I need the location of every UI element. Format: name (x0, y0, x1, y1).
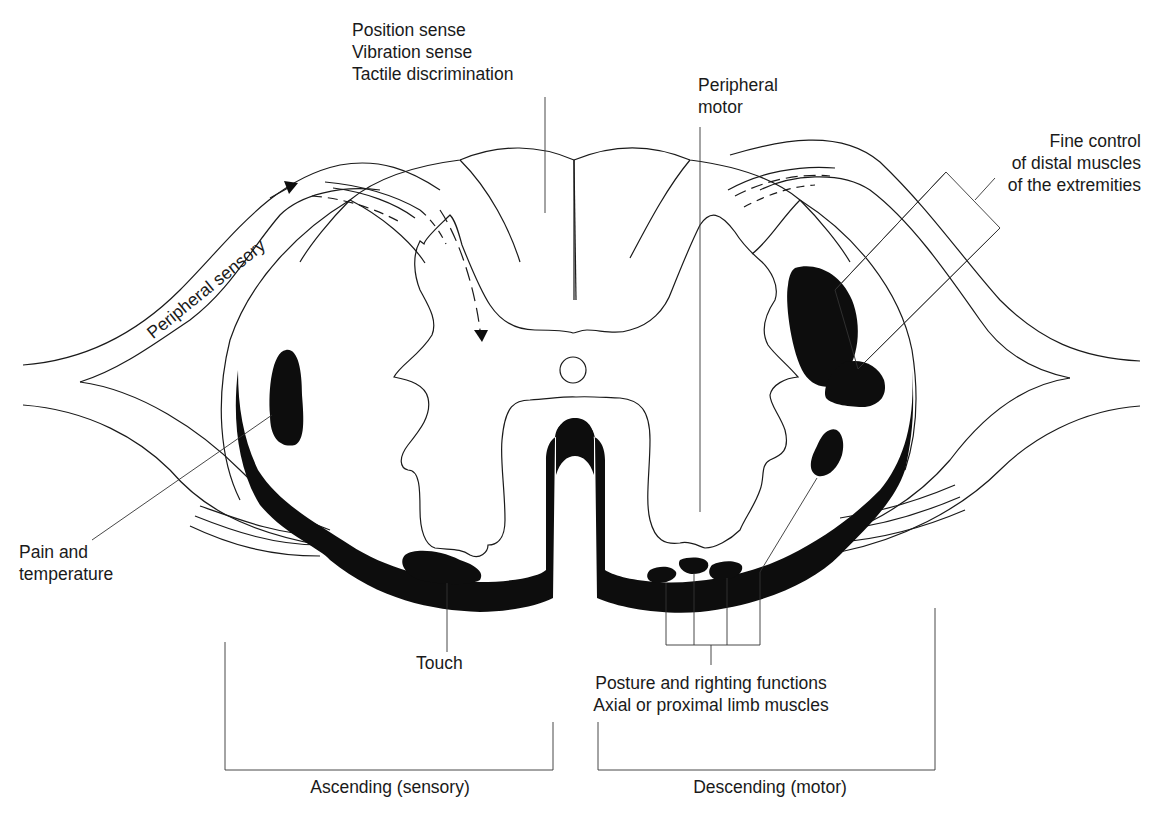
label-posture-line2: Axial or proximal limb muscles (560, 694, 862, 716)
label-posture-line1: Posture and righting functions (560, 672, 862, 694)
label-position-sense: Position sense (352, 19, 513, 41)
leader-lines (92, 97, 1000, 770)
label-fine-control-line1: Fine control (1008, 130, 1141, 152)
right-spinal-nerve (728, 140, 1140, 552)
ventral-tract-1 (647, 567, 676, 583)
ventral-rim (236, 370, 913, 613)
label-pain-temperature-line1: Pain and (19, 541, 113, 563)
label-touch: Touch (416, 652, 463, 674)
label-fine-control-line3: of the extremities (1008, 174, 1141, 196)
label-ascending: Ascending (sensory) (280, 776, 500, 798)
ventral-tract-2 (679, 558, 708, 574)
label-peripheral-motor-line2: motor (698, 96, 778, 118)
tectospinal-tract (811, 429, 843, 476)
spinal-cord-diagram: Position sense Vibration sense Tactile d… (0, 0, 1163, 820)
label-fine-control-line2: of distal muscles (1008, 152, 1141, 174)
label-tactile-discrimination: Tactile discrimination (352, 63, 513, 85)
label-pain-temperature-line2: temperature (19, 563, 113, 585)
label-vibration-sense: Vibration sense (352, 41, 513, 63)
label-descending: Descending (motor) (660, 776, 880, 798)
spinothalamic-tract (270, 350, 304, 446)
label-pain-temperature: Pain and temperature (19, 541, 113, 585)
label-dorsal-columns: Position sense Vibration sense Tactile d… (352, 19, 513, 85)
label-peripheral-motor: Peripheral motor (698, 74, 778, 118)
label-posture: Posture and righting functions Axial or … (560, 672, 862, 716)
label-peripheral-motor-line1: Peripheral (698, 74, 778, 96)
label-fine-control: Fine control of distal muscles of the ex… (1008, 130, 1141, 196)
